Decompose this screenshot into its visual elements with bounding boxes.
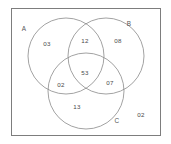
region-value-outside: 02 xyxy=(137,112,144,118)
region-value-a-and-c: 02 xyxy=(57,82,64,88)
region-value-a-and-b: 12 xyxy=(81,38,88,44)
venn-diagram-figure: A B C 03 12 08 53 02 07 13 02 xyxy=(0,0,171,144)
region-value-a-b-c: 53 xyxy=(81,70,88,76)
set-circle-a xyxy=(28,18,104,94)
region-value-b-only: 08 xyxy=(114,38,121,44)
set-label-a: A xyxy=(22,26,26,32)
set-label-c: C xyxy=(115,118,120,124)
region-value-b-and-c: 07 xyxy=(106,80,113,86)
set-circle-c xyxy=(48,53,124,129)
set-label-b: B xyxy=(127,21,131,27)
region-value-c-only: 13 xyxy=(73,104,80,110)
region-value-a-only: 03 xyxy=(43,41,50,47)
